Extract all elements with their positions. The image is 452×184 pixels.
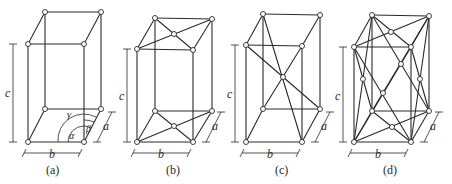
panel-d-lattice — [339, 13, 443, 158]
panel-a-alpha-label: α — [69, 131, 74, 141]
panel-a-b-label: b — [49, 148, 55, 160]
panel-b-caption: (b) — [166, 164, 180, 176]
panel-d-a-label: a — [430, 120, 436, 132]
panel-a-a-label: a — [103, 120, 109, 132]
panel-a-caption: (a) — [46, 164, 59, 176]
panel-a-gamma-label: γ — [67, 110, 71, 120]
panel-b-lattice — [123, 16, 225, 158]
panel-b-c-label: c — [119, 90, 124, 102]
panel-b-a-label: a — [212, 120, 218, 132]
panel-d-c-label: c — [335, 90, 340, 102]
lattice-figure: c b a α β γ (a) c b a (b) c b a (c) c b … — [0, 0, 452, 184]
panel-c-caption: (c) — [275, 164, 288, 176]
panel-c-b-label: b — [267, 148, 273, 160]
lattice-diagram-svg — [0, 0, 452, 184]
panel-c-lattice — [231, 12, 334, 158]
panel-c-a-label: a — [321, 120, 327, 132]
panel-d-caption: (d) — [383, 164, 397, 176]
panel-d-b-label: b — [375, 148, 381, 160]
panel-b-b-label: b — [158, 148, 164, 160]
panel-a-c-label: c — [5, 87, 10, 99]
panel-c-c-label: c — [227, 88, 232, 100]
panel-a-beta-label: β — [86, 124, 91, 134]
panel-a-lattice — [9, 10, 116, 158]
